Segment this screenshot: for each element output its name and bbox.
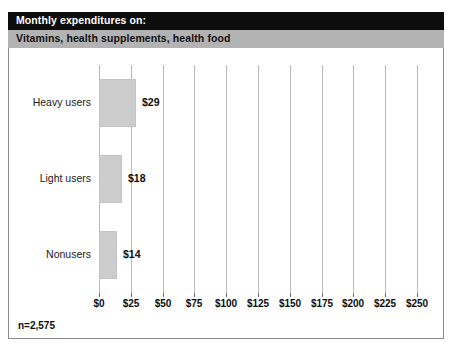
gridline-200 (353, 65, 354, 293)
gridline-125 (258, 65, 259, 293)
gridline-175 (322, 65, 323, 293)
x-tick-label: $250 (406, 298, 428, 309)
x-tick-mark (226, 293, 227, 297)
x-tick-label: $175 (311, 298, 333, 309)
x-tick-label: $200 (342, 298, 364, 309)
plot-area: $29$18$14 (99, 65, 417, 293)
gridline-250 (417, 65, 418, 293)
x-tick-mark (385, 293, 386, 297)
category-label-light-users: Light users (40, 172, 91, 184)
bar-light-users (99, 155, 122, 203)
x-tick-label: $225 (374, 298, 396, 309)
x-tick-mark (353, 293, 354, 297)
x-tick-label: $100 (215, 298, 237, 309)
x-tick-mark (99, 293, 100, 297)
x-tick-label: $0 (93, 298, 104, 309)
category-axis-labels: Heavy usersLight usersNonusers (0, 65, 91, 293)
x-tick-mark (194, 293, 195, 297)
chart-subtitle-band: Vitamins, health supplements, health foo… (8, 30, 444, 48)
bar-value-label: $14 (123, 248, 141, 260)
gridline-50 (163, 65, 164, 293)
category-label-heavy-users: Heavy users (33, 96, 91, 108)
gridline-100 (226, 65, 227, 293)
x-tick-mark (258, 293, 259, 297)
x-tick-mark (322, 293, 323, 297)
x-tick-mark (290, 293, 291, 297)
x-tick-label: $50 (155, 298, 172, 309)
chart-title: Monthly expenditures on: (16, 14, 146, 26)
bar-value-label: $29 (142, 96, 160, 108)
x-tick-label: $75 (186, 298, 203, 309)
gridline-225 (385, 65, 386, 293)
bar-value-label: $18 (128, 172, 146, 184)
x-tick-mark (417, 293, 418, 297)
chart-title-band: Monthly expenditures on: (8, 12, 444, 30)
gridline-75 (194, 65, 195, 293)
x-tick-label: $25 (123, 298, 140, 309)
x-tick-mark (131, 293, 132, 297)
x-tick-label: $150 (279, 298, 301, 309)
category-label-nonusers: Nonusers (46, 248, 91, 260)
sample-size-note: n=2,575 (18, 320, 55, 331)
x-axis: $0$25$50$75$100$125$150$175$200$225$250 (99, 293, 417, 313)
bar-nonusers (99, 231, 117, 279)
x-tick-mark (163, 293, 164, 297)
x-tick-label: $125 (247, 298, 269, 309)
chart-figure: Monthly expenditures on: Vitamins, healt… (0, 0, 452, 349)
chart-subtitle: Vitamins, health supplements, health foo… (16, 32, 231, 44)
bar-heavy-users (99, 79, 136, 127)
gridline-150 (290, 65, 291, 293)
